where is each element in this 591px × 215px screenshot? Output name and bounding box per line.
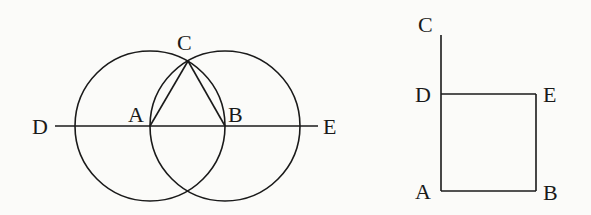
- label-point-b: B: [228, 102, 243, 127]
- label-point-e: E: [543, 82, 556, 107]
- label-point-b: B: [543, 180, 558, 205]
- figure-equilateral-labels: D A B C E: [32, 30, 336, 139]
- label-point-a: A: [128, 102, 144, 127]
- label-point-e: E: [323, 114, 336, 139]
- diagram-canvas: D A B C E C D E A B: [0, 0, 591, 215]
- figure-equilateral-construction: [55, 51, 318, 201]
- figure-square-construction: [441, 35, 536, 191]
- segment-bc: [188, 61, 225, 126]
- label-point-a: A: [415, 179, 431, 204]
- label-point-c: C: [177, 30, 192, 55]
- geometry-figures: D A B C E C D E A B: [0, 0, 591, 215]
- segment-ac: [150, 61, 188, 126]
- label-point-d: D: [415, 82, 431, 107]
- label-point-d: D: [32, 114, 48, 139]
- label-point-c: C: [418, 12, 433, 37]
